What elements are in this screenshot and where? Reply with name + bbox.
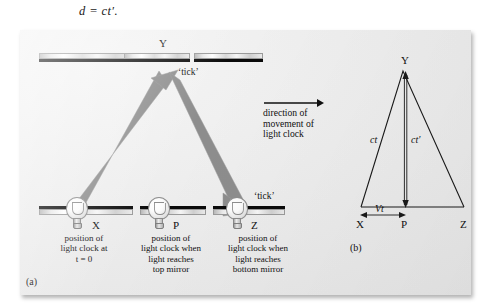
equation-line: d = ct′. <box>79 4 118 19</box>
label-ct: ct <box>370 134 377 145</box>
label-point-y-b: Y <box>401 54 409 66</box>
label-ct-prime: ct′ <box>411 134 420 145</box>
figure-root: d = ct′. <box>0 0 489 308</box>
label-point-x-b: X <box>356 218 364 230</box>
figure-plate: Y X P Z ‘tick’ ‘tick’ position of light … <box>20 30 471 295</box>
panel-b-triangle <box>20 30 471 295</box>
label-point-p-b: P <box>401 218 407 230</box>
panel-b-label: (b) <box>350 242 362 253</box>
label-vt: Vt <box>375 203 384 214</box>
label-point-z-b: Z <box>460 218 467 230</box>
